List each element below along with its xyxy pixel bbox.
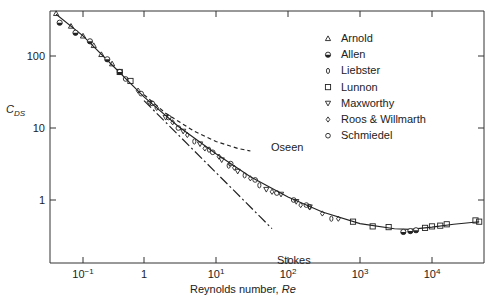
y-tick-label: 10	[33, 122, 45, 134]
allen-marker	[117, 69, 122, 74]
x-tick-label: 102	[280, 267, 297, 280]
legend-item-lunnon: Lunnon	[325, 81, 377, 93]
x-tick-label: 103	[352, 267, 369, 280]
lunnon-legend-icon	[325, 85, 330, 90]
legend-item-roos-willmarth: Roos & Willmarth	[326, 113, 426, 125]
liebster-marker	[258, 183, 261, 188]
legend-item-schmiedel: Schmiedel	[326, 129, 393, 141]
roos-willmarth-legend-icon	[326, 117, 330, 122]
x-tick-label: 10−1	[72, 267, 94, 280]
maxworthy-legend-icon	[325, 101, 330, 106]
x-axis-ticks: 10−11101102103104	[72, 11, 441, 280]
liebster-marker	[193, 139, 196, 144]
roos-willmarth-marker	[186, 132, 190, 137]
legend-label: Arnold	[341, 32, 373, 44]
allen-marker	[57, 20, 62, 25]
legend-label: Roos & Willmarth	[341, 113, 426, 125]
x-tick-label: 104	[424, 267, 441, 280]
legend-item-arnold: Arnold	[325, 32, 372, 44]
legend-item-liebster: Liebster	[326, 64, 380, 76]
x-axis-title: Reynolds number, Re	[190, 283, 296, 295]
x-axis-title-italic: Re	[282, 283, 296, 295]
allen-marker	[73, 30, 78, 35]
legend-label: Allen	[341, 48, 365, 60]
liebster-legend-icon	[326, 68, 329, 73]
y-axis-title-main: C	[6, 103, 14, 115]
legend-label: Liebster	[341, 64, 380, 76]
arnold-legend-icon	[325, 36, 330, 41]
allen-marker	[105, 57, 110, 62]
oseen-curve	[144, 95, 250, 151]
plot-frame	[50, 11, 484, 263]
y-tick-label: 100	[27, 50, 45, 62]
maxworthy-marker	[264, 187, 269, 192]
liebster-marker	[330, 216, 333, 221]
legend-item-allen: Allen	[325, 48, 365, 60]
allen-legend-icon	[325, 52, 330, 57]
x-tick-label: 1	[141, 268, 147, 280]
allen-marker	[408, 228, 413, 233]
lunnon-marker	[370, 224, 375, 229]
roos-willmarth-marker	[270, 189, 274, 194]
allen-marker	[401, 229, 406, 234]
y-axis-title-subscript: DS	[14, 109, 26, 118]
x-tick-label: 101	[208, 267, 225, 280]
drag-coefficient-chart: 10−11101102103104 110100 ArnoldAllenLieb…	[0, 0, 490, 299]
legend-label: Maxworthy	[341, 97, 395, 109]
allen-marker	[87, 39, 92, 44]
legend-label: Lunnon	[341, 81, 378, 93]
legend-item-maxworthy: Maxworthy	[325, 97, 394, 109]
maxworthy-marker	[235, 169, 240, 174]
stokes-label: Stokes	[277, 254, 311, 266]
legend-label: Schmiedel	[341, 129, 392, 141]
schmiedel-legend-icon	[326, 133, 331, 138]
legend: ArnoldAllenLiebsterLunnonMaxworthyRoos &…	[325, 32, 426, 141]
stokes-curve	[144, 101, 272, 229]
y-tick-label: 1	[39, 194, 45, 206]
oseen-label: Oseen	[271, 141, 303, 153]
lunnon-marker	[444, 222, 449, 227]
y-axis-title: CDS	[6, 103, 26, 118]
x-axis-title-text: Reynolds number,	[190, 283, 282, 295]
allen-marker	[413, 228, 418, 233]
